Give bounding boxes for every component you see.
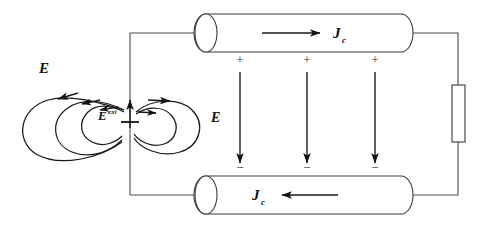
- top-conductor: [194, 14, 413, 52]
- label-field-ext-sup: ext: [108, 108, 118, 116]
- load-resistor: [452, 85, 465, 142]
- bottom-conductor: [194, 176, 413, 214]
- label-current-bottom-sub: c: [261, 197, 265, 207]
- negative-charge-sign-3: −: [371, 160, 378, 175]
- negative-charge-sign-2: −: [303, 160, 310, 175]
- wire-top-to-resistor: [411, 33, 458, 85]
- wire-resistor-to-bottom: [411, 142, 458, 195]
- right-field-loop-inner: [134, 108, 176, 145]
- right-field-loops: [134, 100, 200, 154]
- label-current-top-sub: c: [342, 35, 346, 45]
- negative-charge-sign-1: −: [236, 160, 243, 175]
- right-field-loop-outer: [134, 101, 200, 154]
- bottom-conductor-endcap: [195, 176, 217, 214]
- label-current-bottom-base: J: [251, 187, 260, 203]
- label-field-ext-base: E: [97, 108, 107, 123]
- right-field-arrow-outer: [148, 100, 170, 101]
- physics-diagram: E E ext E J c J c +++−−−: [0, 0, 480, 229]
- positive-charge-sign-3: +: [371, 52, 378, 67]
- positive-charge-sign-2: +: [303, 52, 310, 67]
- top-conductor-endcap: [195, 14, 217, 52]
- right-field-arrow-inner: [138, 112, 156, 113]
- figure-canvas: E E ext E J c J c +++−−−: [0, 0, 480, 229]
- left-field-loops: [23, 93, 124, 161]
- gap-field-arrows: [240, 72, 375, 163]
- label-field-outer: E: [38, 60, 49, 76]
- label-field-ext: E ext: [97, 108, 118, 123]
- positive-charge-sign-1: +: [236, 52, 243, 67]
- circuit-wiring: [130, 33, 458, 195]
- label-current-top-base: J: [332, 25, 341, 41]
- label-field-gap: E: [210, 110, 220, 125]
